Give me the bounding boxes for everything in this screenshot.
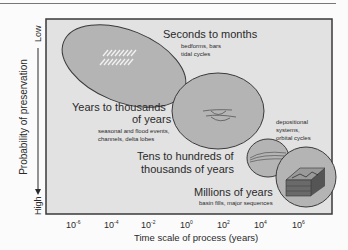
x-tick-1e2: 102: [217, 219, 230, 230]
x-tick-1e-2: 10-2: [141, 219, 156, 230]
label-millions-of-years: Millions of years basin fills, major seq…: [194, 186, 273, 206]
svg-text:10-6: 10-6: [66, 219, 81, 230]
ellipse-years-to-thousands: [172, 73, 264, 149]
x-tick-1e0: 100: [180, 219, 193, 230]
svg-text:100: 100: [180, 219, 193, 230]
x-axis-label: Time scale of process (years): [134, 232, 258, 243]
ellipse-millions-of-years: [276, 147, 336, 207]
svg-text:Tens to hundreds of: Tens to hundreds of: [137, 150, 235, 162]
svg-text:10-4: 10-4: [104, 219, 119, 230]
x-axis: 10-6 10-4 10-2 100 102 104 106 Time scal…: [66, 219, 305, 243]
svg-text:Years to thousands: Years to thousands: [72, 101, 166, 113]
svg-text:thousands of years: thousands of years: [141, 163, 234, 175]
x-tick-1e-4: 10-4: [104, 219, 119, 230]
svg-text:Millions of years: Millions of years: [194, 186, 273, 198]
svg-text:bedforms, bars: bedforms, bars: [181, 43, 221, 49]
svg-text:104: 104: [254, 219, 267, 230]
x-tick-1e4: 104: [254, 219, 267, 230]
svg-text:tidal cycles: tidal cycles: [181, 51, 210, 57]
svg-text:Probability of preservation: Probability of preservation: [18, 59, 29, 175]
svg-text:depositional: depositional: [276, 119, 308, 125]
svg-text:102: 102: [217, 219, 230, 230]
x-tick-1e-6: 10-6: [66, 219, 81, 230]
svg-text:of years: of years: [132, 113, 172, 125]
svg-text:systems,: systems,: [276, 127, 300, 133]
svg-text:channels, delta lobes: channels, delta lobes: [98, 136, 154, 142]
svg-text:basin fills, major sequences: basin fills, major sequences: [199, 200, 273, 206]
svg-text:Seconds to months: Seconds to months: [163, 28, 258, 40]
label-tens-to-hundreds: Tens to hundreds of thousands of years: [137, 150, 235, 175]
arrow-down-icon: [35, 189, 41, 195]
y-axis: Probability of preservation Low High: [18, 25, 43, 215]
svg-text:106: 106: [292, 219, 305, 230]
svg-text:seasonal and flood events,: seasonal and flood events,: [98, 128, 170, 134]
x-tick-1e6: 106: [292, 219, 305, 230]
svg-text:10-2: 10-2: [141, 219, 156, 230]
svg-text:Low: Low: [33, 25, 43, 42]
preservation-timescale-diagram: Seconds to months bedforms, bars tidal c…: [0, 0, 348, 250]
svg-text:orbital cycles: orbital cycles: [276, 135, 311, 141]
svg-text:High: High: [33, 196, 43, 215]
